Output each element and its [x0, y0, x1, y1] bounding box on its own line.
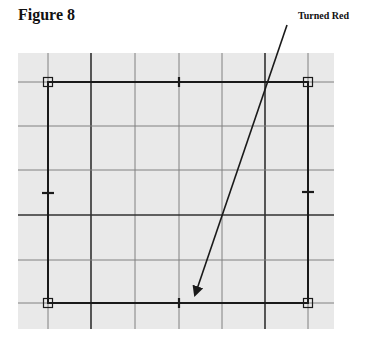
grid-area — [18, 53, 334, 329]
figure-diagram — [0, 0, 365, 348]
grid-background — [18, 53, 334, 329]
